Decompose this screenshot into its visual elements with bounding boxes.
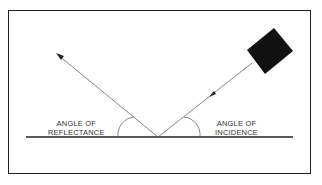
reflectance-angle-arc <box>118 117 134 137</box>
light-source-icon <box>247 28 293 74</box>
label-line: ANGLE OF <box>48 119 105 128</box>
label-line: ANGLE OF <box>215 119 258 128</box>
reflection-diagram <box>0 0 322 185</box>
label-line: INCIDENCE <box>215 128 258 137</box>
label-angle-of-reflectance: ANGLE OF REFLECTANCE <box>48 119 105 137</box>
label-line: REFLECTANCE <box>48 128 105 137</box>
label-angle-of-incidence: ANGLE OF INCIDENCE <box>215 119 258 137</box>
incidence-angle-arc <box>184 117 200 137</box>
